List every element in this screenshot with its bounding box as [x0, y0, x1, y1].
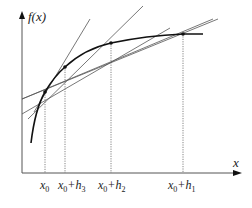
secant-lines [22, 6, 218, 119]
label-x0-h1: x0+h1 [167, 178, 195, 194]
point-x0 [43, 90, 47, 94]
label-x0-h2: x0+h2 [97, 178, 125, 194]
label-x0-h3: x0+h3 [57, 178, 85, 194]
point-x0-h2 [109, 41, 113, 45]
derivative-diagram: f(x) x x0 x0+h3 x0+h2 x0+h1 [0, 0, 252, 208]
point-x0-h3 [63, 65, 67, 69]
label-x0: x0 [39, 178, 49, 194]
function-curve [31, 34, 203, 143]
point-x0-h1 [181, 32, 185, 36]
axes [19, 11, 242, 176]
y-axis-arrow-icon [19, 11, 25, 19]
x-axis-label: x [232, 155, 239, 170]
tick-labels: x0 x0+h3 x0+h2 x0+h1 [39, 178, 195, 194]
secant-h2-visible [22, 28, 170, 114]
y-axis-label: f(x) [28, 9, 46, 24]
guide-lines [45, 34, 183, 173]
secant-h1-visible [22, 19, 218, 99]
x-axis-arrow-icon [233, 170, 242, 176]
